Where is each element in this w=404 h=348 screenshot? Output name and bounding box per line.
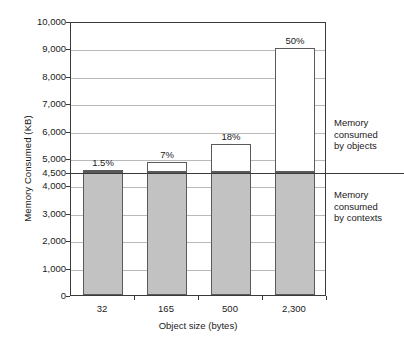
bar-value-label: 50% xyxy=(261,35,329,46)
x-axis-tick-mark xyxy=(326,296,327,300)
legend-objects-line-1: Memory xyxy=(334,117,402,129)
x-axis-tick-mark xyxy=(198,296,199,300)
y-axis-tick-label: 6,000 xyxy=(22,127,66,137)
x-axis-tick-mark xyxy=(262,296,263,300)
legend-memory-by-contexts: Memory consumed by contexts xyxy=(334,189,402,224)
bar-group[interactable]: 7% xyxy=(147,21,187,295)
legend-memory-by-objects: Memory consumed by objects xyxy=(334,117,402,152)
y-axis-tick-labels: 01,0002,0003,0004,0004,5005,0006,0007,00… xyxy=(22,0,66,348)
x-axis-tick-mark xyxy=(134,296,135,300)
y-axis-tick-label: 5,000 xyxy=(22,154,66,164)
bar-value-label: 1.5% xyxy=(69,157,137,168)
memory-consumption-bar-chart: Memory Consumed (KB) 01,0002,0003,0004,0… xyxy=(0,0,404,348)
legend-contexts-line-3: by contexts xyxy=(334,212,402,224)
y-axis-tick-label: 1,000 xyxy=(22,264,66,274)
x-axis-tick-label: 32 xyxy=(67,303,137,314)
bar-value-label: 7% xyxy=(133,149,201,160)
y-axis-tick-label: 3,000 xyxy=(22,209,66,219)
legend-objects-line-3: by objects xyxy=(334,140,402,152)
bar-group[interactable]: 50% xyxy=(275,21,315,295)
legend-contexts-line-2: consumed xyxy=(334,201,402,213)
bar-segment-objects[interactable] xyxy=(275,48,315,171)
x-axis-tick-label: 165 xyxy=(131,303,201,314)
bar-segment-contexts[interactable] xyxy=(211,172,251,295)
bar-segment-objects[interactable] xyxy=(147,162,187,171)
bar-value-label: 18% xyxy=(197,131,265,142)
bar-segment-contexts[interactable] xyxy=(275,172,315,295)
bar-group[interactable]: 1.5% xyxy=(83,21,123,295)
bar-segment-objects[interactable] xyxy=(211,144,251,171)
bar-segment-contexts[interactable] xyxy=(83,172,123,295)
x-axis-tick-label: 2,300 xyxy=(259,303,329,314)
y-axis-tick-label: 9,000 xyxy=(22,44,66,54)
bar-group[interactable]: 18% xyxy=(211,21,251,295)
y-axis-tick-label: 10,000 xyxy=(22,17,66,27)
y-axis-tick-label: 2,000 xyxy=(22,236,66,246)
y-axis-tick-label: 8,000 xyxy=(22,72,66,82)
legend-contexts-line-1: Memory xyxy=(334,189,402,201)
x-axis-title: Object size (bytes) xyxy=(70,320,326,331)
y-axis-tick-label: 4,500 xyxy=(22,168,66,178)
baseline-divider-line xyxy=(70,173,404,174)
y-axis-tick-label: 4,000 xyxy=(22,181,66,191)
y-axis-tick-label: 7,000 xyxy=(22,99,66,109)
plot-area: 1.5%7%18%50% xyxy=(70,22,326,296)
bar-segment-contexts[interactable] xyxy=(147,172,187,295)
x-axis-tick-label: 500 xyxy=(195,303,265,314)
x-axis-tick-marks xyxy=(70,296,326,301)
legend-objects-line-2: consumed xyxy=(334,129,402,141)
y-axis-tick-label: 0 xyxy=(22,291,66,301)
